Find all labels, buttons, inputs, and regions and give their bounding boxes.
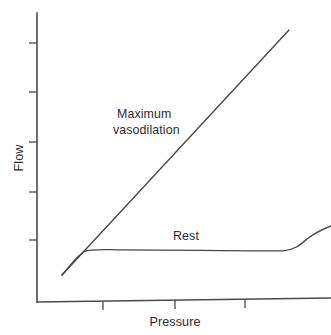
annotation-maximum-line2: vasodilation — [113, 123, 180, 137]
annotation-rest: Rest — [173, 229, 199, 243]
chart-canvas: Flow Pressure Maximum vasodilation Rest — [0, 0, 331, 335]
pressure-flow-figure: Flow Pressure Maximum vasodilation Rest — [0, 0, 331, 335]
annotation-maximum-line1: Maximum — [117, 107, 171, 121]
x-axis-title: Pressure — [149, 315, 200, 329]
y-axis-title: Flow — [12, 144, 26, 172]
chart-background — [0, 0, 331, 335]
